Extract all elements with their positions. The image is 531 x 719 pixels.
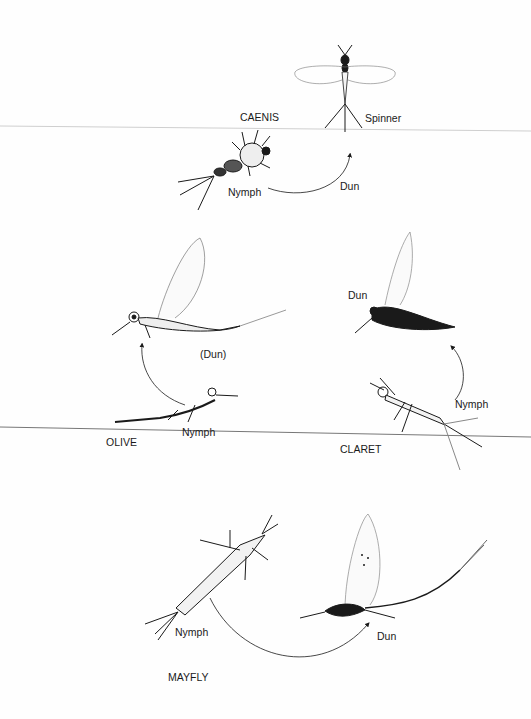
- olive-dun-label: (Dun): [200, 348, 226, 360]
- mayfly-dun-label: Dun: [377, 630, 396, 642]
- olive-title: OLIVE: [106, 436, 137, 448]
- caenis-arrow: [268, 155, 350, 193]
- olive-dun-drawing: [112, 238, 286, 338]
- illustration-page: CAENIS Spinner Nymph Dun (Dun) Nymph OLI…: [0, 0, 531, 719]
- caenis-spinner-label: Spinner: [365, 112, 401, 124]
- olive-nymph-label: Nymph: [182, 426, 215, 438]
- claret-nymph-label: Nymph: [455, 398, 488, 410]
- mayfly-nymph-label: Nymph: [175, 626, 208, 638]
- caenis-nymph-drawing: [178, 130, 270, 210]
- claret-dun-drawing: [355, 232, 455, 333]
- mayfly-dun-drawing: [300, 514, 487, 618]
- mayfly-title: MAYFLY: [168, 671, 208, 683]
- claret-nymph-drawing: [370, 378, 482, 470]
- caenis-nymph-label: Nymph: [228, 186, 261, 198]
- olive-nymph-drawing: [115, 388, 238, 422]
- claret-title: CLARET: [340, 443, 381, 455]
- mayfly-nymph-drawing: [145, 515, 278, 640]
- caenis-dun-label: Dun: [340, 180, 359, 192]
- caenis-title: CAENIS: [240, 111, 279, 123]
- olive-arrow: [142, 345, 185, 405]
- claret-dun-label: Dun: [348, 289, 367, 301]
- divider-line-top: [0, 126, 531, 131]
- illustration-artwork: [0, 0, 531, 719]
